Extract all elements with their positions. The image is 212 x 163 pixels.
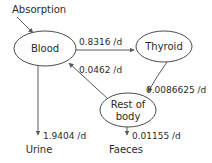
edge-absorption-to-blood [17,17,33,33]
edge-label-rest-to-blood: 0.0462 /d [79,65,122,75]
node-blood-label: Blood [31,43,59,54]
node-rest-of-body-label-line2: body [116,111,141,122]
edge-label-blood-to-thyroid: 0.8316 /d [79,37,122,47]
edge-label-thyroid-to-rest: 0.0086625 /d [146,85,206,95]
source-label-absorption: Absorption [12,4,66,15]
node-thyroid-label: Thyroid [144,41,183,52]
edge-label-rest-to-faeces: 0.01155 /d [132,131,181,141]
sink-label-faeces: Faeces [109,144,143,155]
edge-label-blood-to-urine: 1.9404 /d [43,131,86,141]
diagram-canvas: Blood Thyroid Rest of body Absorption 0.… [0,0,212,163]
node-rest-of-body-label-line1: Rest of [111,99,146,110]
sink-label-urine: Urine [26,144,53,155]
compartment-diagram: Blood Thyroid Rest of body Absorption 0.… [0,0,212,163]
